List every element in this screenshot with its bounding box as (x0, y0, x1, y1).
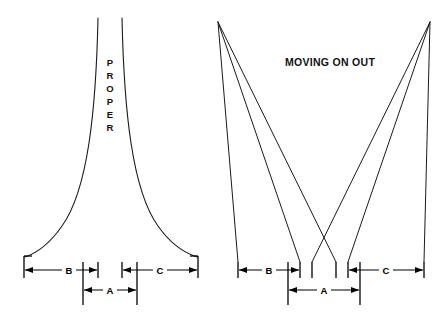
proper-letter-3: O (106, 83, 113, 94)
dim-label-a: A (107, 285, 114, 296)
dim-label-c-right-panel: C (383, 265, 390, 276)
dim-label-c: C (157, 265, 164, 276)
moving-on-out-title: MOVING ON OUT (285, 56, 376, 68)
proper-letter-4: P (107, 96, 114, 107)
dim-label-b-right-panel: B (266, 265, 273, 276)
dim-label-a-right-panel: A (321, 285, 328, 296)
proper-letter-6: R (107, 122, 114, 133)
proper-letter-2: R (107, 70, 114, 81)
dim-label-b: B (66, 265, 73, 276)
proper-letter-5: E (107, 109, 113, 120)
proper-letter-1: P (107, 57, 114, 68)
technical-diagram: P R O P E R B C (0, 0, 448, 324)
